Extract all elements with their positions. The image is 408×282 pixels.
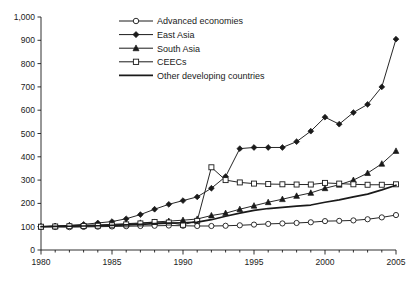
marker-open-circle	[351, 218, 356, 223]
marker-filled-diamond	[152, 206, 158, 212]
marker-filled-diamond	[251, 145, 257, 151]
marker-open-circle	[195, 223, 200, 228]
y-tick-label: 400	[21, 152, 35, 162]
marker-open-square	[379, 182, 384, 187]
marker-open-circle	[133, 18, 138, 23]
x-tick-label: 1990	[174, 257, 193, 267]
legend-item-south-asia[interactable]: South Asia	[119, 44, 200, 54]
x-tick-label: 2005	[387, 257, 406, 267]
marker-open-square	[365, 182, 370, 187]
marker-filled-diamond	[166, 201, 172, 207]
y-tick-label: 300	[21, 175, 35, 185]
marker-open-square	[351, 182, 356, 187]
marker-filled-diamond	[237, 146, 243, 152]
marker-open-circle	[209, 223, 214, 228]
legend-label: East Asia	[157, 30, 195, 40]
marker-filled-diamond	[265, 145, 271, 151]
marker-open-square	[280, 182, 285, 187]
y-tick-label: 100	[21, 222, 35, 232]
x-tick-label: 1980	[32, 257, 51, 267]
marker-open-square	[237, 180, 242, 185]
y-axis-ticks: 01002003004005006007008009001,000	[14, 12, 41, 255]
marker-open-square	[252, 181, 257, 186]
marker-open-circle	[308, 220, 313, 225]
marker-open-circle	[337, 218, 342, 223]
marker-open-circle	[322, 219, 327, 224]
marker-open-square	[223, 178, 228, 183]
marker-filled-diamond	[194, 194, 200, 200]
marker-filled-diamond	[180, 198, 186, 204]
marker-filled-diamond	[138, 212, 144, 218]
y-tick-label: 200	[21, 198, 35, 208]
marker-open-circle	[237, 223, 242, 228]
chart-legend: Advanced economiesEast AsiaSouth AsiaCEE…	[119, 16, 265, 80]
marker-open-circle	[393, 212, 398, 217]
chart-container: 01002003004005006007008009001,000 198019…	[0, 0, 408, 282]
marker-open-square	[337, 181, 342, 186]
marker-open-circle	[294, 220, 299, 225]
marker-filled-triangle	[365, 170, 371, 176]
marker-open-square	[323, 180, 328, 185]
series-advanced-economies	[38, 212, 398, 229]
legend-label: Advanced economies	[157, 16, 244, 26]
axes	[41, 17, 396, 250]
marker-filled-diamond	[133, 32, 139, 38]
legend-label: CEECs	[157, 57, 187, 67]
marker-open-square	[294, 182, 299, 187]
marker-open-circle	[266, 221, 271, 226]
series-line	[41, 151, 396, 227]
x-tick-label: 1995	[245, 257, 264, 267]
legend-item-east-asia[interactable]: East Asia	[119, 30, 195, 40]
data-series	[38, 36, 399, 230]
marker-filled-diamond	[393, 36, 399, 42]
legend-item-ceecs[interactable]: CEECs	[119, 57, 187, 67]
x-tick-label: 1985	[103, 257, 122, 267]
legend-label: Other developing countries	[157, 71, 265, 81]
legend-label: South Asia	[157, 44, 200, 54]
marker-open-circle	[280, 221, 285, 226]
marker-open-circle	[379, 215, 384, 220]
marker-filled-diamond	[280, 145, 286, 151]
marker-open-circle	[365, 217, 370, 222]
y-tick-label: 500	[21, 129, 35, 139]
y-tick-label: 1,000	[14, 12, 36, 22]
y-tick-label: 600	[21, 105, 35, 115]
series-south-asia	[38, 148, 399, 229]
marker-open-square	[133, 59, 138, 64]
x-tick-label: 2000	[316, 257, 335, 267]
series-ceecs	[39, 165, 399, 229]
y-tick-label: 900	[21, 35, 35, 45]
y-tick-label: 800	[21, 59, 35, 69]
series-east-asia	[38, 36, 399, 229]
marker-filled-triangle	[393, 148, 399, 154]
marker-open-square	[209, 165, 214, 170]
line-chart: 01002003004005006007008009001,000 198019…	[0, 0, 408, 282]
x-axis-ticks: 198019851990199520002005	[32, 250, 406, 267]
y-tick-label: 0	[30, 245, 35, 255]
y-tick-label: 700	[21, 82, 35, 92]
marker-open-circle	[251, 222, 256, 227]
legend-item-other-developing-countries[interactable]: Other developing countries	[119, 71, 265, 81]
marker-open-square	[266, 182, 271, 187]
legend-item-advanced-economies[interactable]: Advanced economies	[119, 16, 244, 26]
marker-open-circle	[223, 223, 228, 228]
marker-open-square	[308, 182, 313, 187]
